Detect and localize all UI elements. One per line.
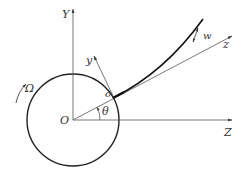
global-origin-label: O xyxy=(60,114,69,127)
beam-root xyxy=(113,92,124,98)
rotating-beam-diagram: Y Z O z y o θ w Ω xyxy=(0,0,244,180)
theta-arc xyxy=(97,107,100,120)
local-y-label: y xyxy=(85,54,93,67)
local-z-label: z xyxy=(222,38,229,51)
theta-label: θ xyxy=(102,105,109,118)
local-origin-label: o xyxy=(105,88,111,99)
angular-velocity-label: Ω xyxy=(24,82,34,95)
global-z-label: Z xyxy=(223,126,232,139)
deflection-label: w xyxy=(203,30,212,41)
global-y-label: Y xyxy=(62,8,71,21)
